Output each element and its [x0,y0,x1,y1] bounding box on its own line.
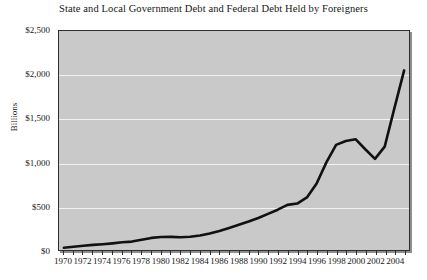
x-axis-tick [317,251,318,255]
x-axis-tick-label: 1990 [249,256,267,267]
data-series-line [59,31,409,250]
x-axis-tick [161,251,162,255]
x-axis-tick [210,251,211,255]
x-axis-tick [170,251,171,255]
x-axis-tick [405,251,406,255]
y-axis-tick-label: $0 [41,247,50,256]
plot-area [58,30,410,251]
x-axis-tick-label: 1972 [73,256,91,267]
x-axis-tick [63,251,64,255]
chart-title: State and Local Government Debt and Fede… [0,3,427,14]
y-axis-tick-label: $2,000 [25,70,50,79]
x-axis-tick [288,251,289,255]
x-axis-tick [327,251,328,255]
x-axis-tick-label: 1980 [152,256,170,267]
y-axis-tick-labels: $0$500$1,000$1,500$2,000$2,500 [0,30,54,251]
y-axis-tick-label: $2,500 [25,26,50,35]
x-axis-tick [395,251,396,255]
x-axis-tick [249,251,250,255]
x-axis-tick-label: 1982 [171,256,189,267]
x-axis-tick [239,251,240,255]
x-axis-tick-labels: 1970197219741976197819801982198419861988… [0,256,427,272]
plot-inner [59,31,409,250]
x-axis-tick-label: 1970 [54,256,72,267]
x-axis-tick [92,251,93,255]
x-axis-tick [386,251,387,255]
x-axis-tick [190,251,191,255]
x-axis-tick-label: 1996 [308,256,326,267]
x-axis-tick [307,251,308,255]
y-axis-tick-label: $500 [32,202,50,211]
x-axis-tick [337,251,338,255]
series-polyline [64,70,404,247]
x-axis-tick [82,251,83,255]
x-axis-tick [356,251,357,255]
x-axis-tick-label: 1978 [132,256,150,267]
x-axis-tick [258,251,259,255]
x-axis-tick [268,251,269,255]
x-axis-tick-label: 1984 [191,256,209,267]
y-axis-tick-label: $1,500 [25,114,50,123]
x-axis-tick-label: 2002 [367,256,385,267]
x-axis-tick [200,251,201,255]
x-axis-tick [141,251,142,255]
x-axis-tick-label: 1986 [210,256,228,267]
x-axis-tick [180,251,181,255]
x-axis-tick [122,251,123,255]
chart-container: State and Local Government Debt and Fede… [0,0,427,280]
x-axis-tick [151,251,152,255]
x-axis-tick-label: 1994 [289,256,307,267]
x-axis-tick [278,251,279,255]
x-axis-tick-label: 1976 [113,256,131,267]
x-axis-tick-label: 1974 [93,256,111,267]
x-axis-tick [73,251,74,255]
x-axis-tick [366,251,367,255]
y-axis-tick-label: $1,000 [25,158,50,167]
x-axis-tick [229,251,230,255]
x-axis-tick [298,251,299,255]
x-axis-tick [131,251,132,255]
x-axis-tick-label: 1998 [328,256,346,267]
x-axis-tick-label: 1988 [230,256,248,267]
x-axis-tick-label: 2000 [347,256,365,267]
x-axis-tick [376,251,377,255]
x-axis-tick-label: 2004 [386,256,404,267]
x-axis-tick [346,251,347,255]
x-axis-tick-label: 1992 [269,256,287,267]
x-axis-tick [219,251,220,255]
x-axis-tick [112,251,113,255]
x-axis-tick [102,251,103,255]
